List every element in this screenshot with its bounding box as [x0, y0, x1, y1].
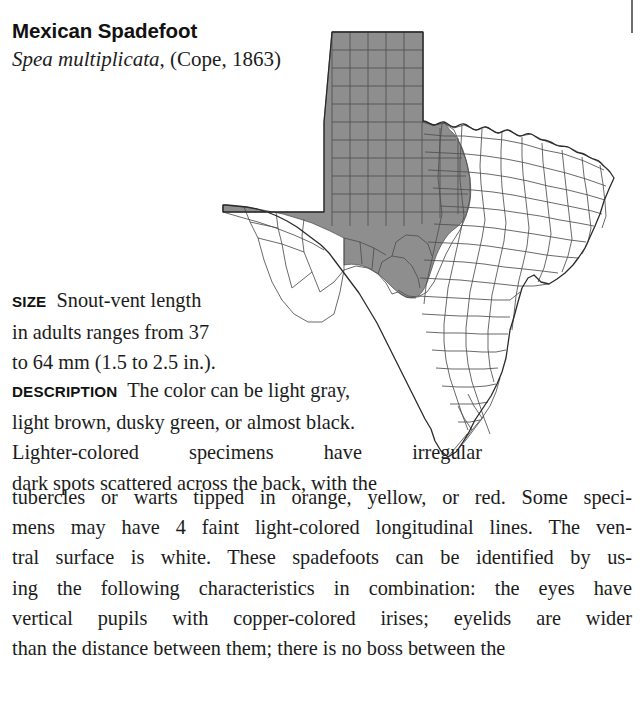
wide-text-column: tubercles or warts tipped in orange, yel… [12, 482, 632, 663]
size-text-1: Snout-vent length [57, 289, 202, 311]
field-guide-page: Mexican Spadefoot Spea multiplicata, (Co… [0, 0, 643, 704]
description-label: DESCRIPTION [12, 383, 117, 400]
size-line-1: SIZE Snout-vent length [12, 285, 250, 317]
narrow-text-column: SIZE Snout-vent length in adults ranges … [12, 285, 250, 378]
size-line-2: in adults ranges from 37 [12, 317, 250, 347]
description-line-2: light brown, dusky green, or almost blac… [12, 407, 482, 437]
description-line-1: DESCRIPTION The color can be light gray, [12, 375, 482, 407]
map-range-shading [223, 32, 471, 298]
description-wide-line-3: tral surface is white. These spadefoots … [12, 542, 632, 572]
size-label: SIZE [12, 293, 46, 310]
page-edge-rule [631, 0, 633, 33]
description-text-1: The color can be light gray, [127, 379, 350, 401]
description-wide-line-2: mens may have 4 faint light-colored long… [12, 512, 632, 542]
species-scientific-name: Spea multiplicata [12, 47, 160, 71]
size-line-3: to 64 mm (1.5 to 2.5 in.). [12, 347, 250, 377]
description-wide-line-6: than the distance between them; there is… [12, 633, 632, 663]
description-narrow-column: DESCRIPTION The color can be light gray,… [12, 375, 482, 498]
description-line-3: Lighter-colored specimens have irregular [12, 437, 482, 467]
description-wide-line-5: vertical pupils with copper-colored iris… [12, 603, 632, 633]
description-wide-line-4: ing the following characteristics in com… [12, 573, 632, 603]
description-wide-line-1: tubercles or warts tipped in orange, yel… [12, 482, 632, 512]
